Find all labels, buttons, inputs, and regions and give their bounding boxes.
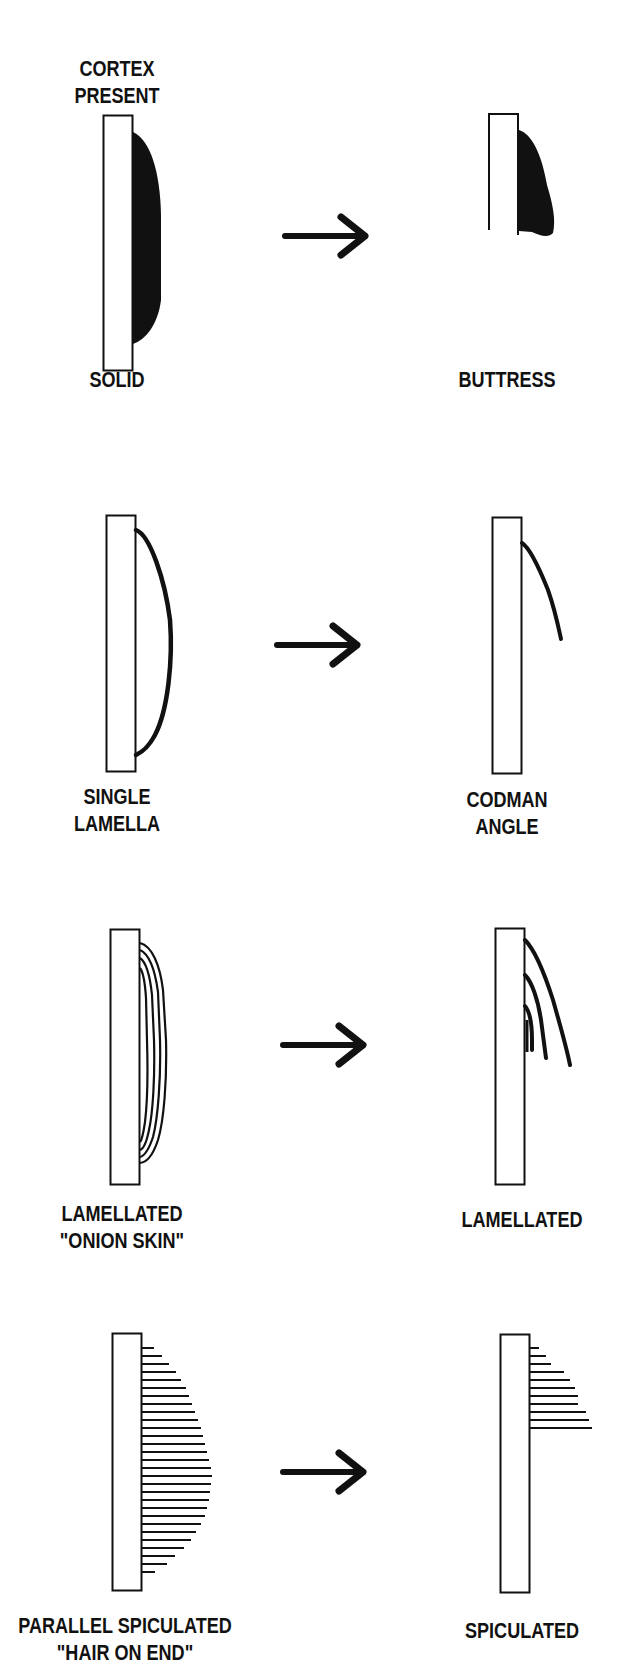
lamellated-codman-icon	[496, 929, 571, 1185]
single-lamella-icon	[107, 516, 171, 772]
hair-on-end-icon	[113, 1334, 213, 1591]
solid-cortex-icon	[104, 116, 162, 371]
codman-angle-icon	[493, 518, 562, 774]
onion-skin-icon	[111, 930, 167, 1185]
diagram-graphics	[0, 0, 629, 1671]
right-arrow-icon	[283, 1026, 363, 1064]
buttress-icon	[489, 114, 554, 236]
right-arrow-icon	[277, 626, 357, 664]
spiculated-icon	[501, 1335, 593, 1593]
right-arrow-icon	[283, 1453, 363, 1491]
periosteal-reaction-diagram: CORTEX PRESENT SOLID BUTTRESS SINGLE LAM…	[0, 0, 629, 1671]
right-arrow-icon	[285, 217, 365, 255]
